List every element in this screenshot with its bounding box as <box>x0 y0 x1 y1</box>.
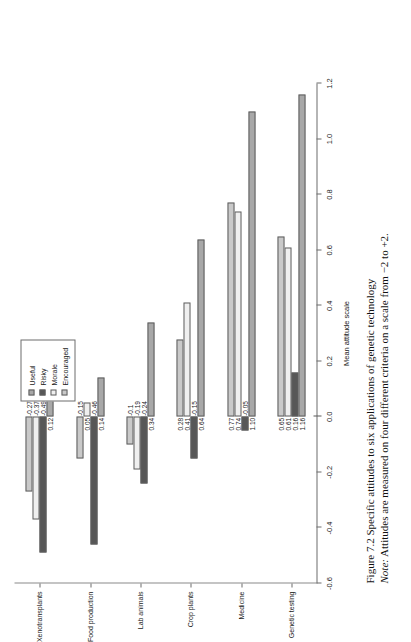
bar-useful <box>97 377 104 416</box>
bar-value-label: 0.65 <box>277 417 284 430</box>
legend-label: Useful <box>28 365 35 385</box>
bar-useful <box>197 239 204 417</box>
bar-value-label: 0.28 <box>176 417 183 430</box>
legend-label: Morale <box>50 364 57 385</box>
bar-value-label: 1.16 <box>298 417 305 430</box>
value-axis-tick-label: 0.6 <box>324 244 333 254</box>
bar-value-label: 1.10 <box>248 417 255 430</box>
legend-label: Risky <box>39 368 46 385</box>
caption-note-lead: Note: <box>377 559 389 583</box>
bar-value-label: 0.05 <box>83 417 90 430</box>
caption-note-text: Attitudes are measured on four different… <box>377 233 389 559</box>
bar-morale <box>133 416 140 469</box>
value-axis-line <box>316 83 317 583</box>
bar-value-label: 0.12 <box>46 417 53 430</box>
caption-note: Note: Attitudes are measured on four dif… <box>376 23 390 583</box>
value-axis-tick <box>316 471 321 472</box>
value-axis-tick-label: -0.6 <box>324 577 333 590</box>
bar-risky <box>291 372 298 416</box>
value-axis-tick <box>316 526 321 527</box>
bar-morale <box>234 211 241 417</box>
bar-value-label: -0.05 <box>241 401 248 416</box>
legend-item: Morale <box>48 347 58 395</box>
bar-morale <box>183 302 190 416</box>
bar-useful <box>298 94 305 416</box>
legend-item: Useful <box>26 347 36 395</box>
bar-value-label: 0.64 <box>197 417 204 430</box>
bar-risky <box>39 416 46 552</box>
value-axis-tick <box>316 138 321 139</box>
caption-title: Figure 7.2 Specific attitudes to six app… <box>362 23 376 583</box>
bar-risky <box>140 416 147 483</box>
bar-encouraged <box>25 416 32 491</box>
value-axis-tick-label: -0.2 <box>324 465 333 478</box>
bar-value-label: -0.19 <box>133 401 140 416</box>
bar-value-label: -0.27 <box>25 401 32 416</box>
legend-swatch-morale <box>50 389 56 395</box>
value-axis-tick-label: 0.2 <box>324 356 333 366</box>
bar-risky <box>190 416 197 458</box>
bar-value-label: 0.14 <box>97 417 104 430</box>
value-axis-tick-label: 1.0 <box>324 133 333 143</box>
value-axis-tick <box>316 582 321 583</box>
bar-value-label: 0.41 <box>183 417 190 430</box>
bar-value-label: -0.24 <box>140 401 147 416</box>
category-label: Food production <box>86 585 93 642</box>
bar-value-label: -0.1 <box>126 404 133 415</box>
bar-value-label: 0.34 <box>147 417 154 430</box>
value-axis-tick-label: 0.4 <box>324 300 333 310</box>
value-axis-tick <box>316 82 321 83</box>
legend-swatch-encouraged <box>61 389 67 395</box>
bar-value-label: 0.16 <box>291 417 298 430</box>
bar-value-label: 0.77 <box>227 417 234 430</box>
figure-caption: Figure 7.2 Specific attitudes to six app… <box>362 23 390 583</box>
value-axis-tick-label: 0.0 <box>324 411 333 421</box>
value-axis-tick <box>316 360 321 361</box>
category-label: Genetic testing <box>287 585 294 638</box>
category-label: Lab animals <box>136 585 143 629</box>
value-axis-tick <box>313 415 321 416</box>
value-axis-tick <box>316 249 321 250</box>
bar-value-label: -0.15 <box>190 401 197 416</box>
value-axis-tick-label: 1.2 <box>324 78 333 88</box>
bar-value-label: -0.37 <box>32 401 39 416</box>
bar-encouraged <box>176 339 183 417</box>
value-axis-tick-label: 0.8 <box>324 189 333 199</box>
bar-encouraged <box>126 416 133 444</box>
value-axis-tick <box>316 193 321 194</box>
bar-value-label: -0.49 <box>39 401 46 416</box>
bar-encouraged <box>227 202 234 416</box>
bar-risky <box>90 416 97 544</box>
legend: UsefulRiskyMoraleEncouraged <box>20 339 75 401</box>
bar-morale <box>83 402 90 416</box>
bar-value-label: -0.46 <box>90 401 97 416</box>
legend-label: Encouraged <box>61 347 68 385</box>
bar-value-label: 0.74 <box>234 417 241 430</box>
bar-encouraged <box>277 236 284 417</box>
bar-value-label: 0.61 <box>284 417 291 430</box>
bar-useful <box>248 111 255 417</box>
legend-swatch-useful <box>28 389 34 395</box>
category-axis-line <box>14 582 316 583</box>
plot-area: -0.27-0.37-0.490.12-0.150.05-0.460.14-0.… <box>14 83 316 583</box>
category-label: Crop plants <box>187 585 194 627</box>
legend-item: Encouraged <box>59 347 69 395</box>
legend-item: Risky <box>37 347 47 395</box>
category-label: Medicine <box>237 585 244 619</box>
legend-swatch-risky <box>39 389 45 395</box>
bar-risky <box>241 416 248 430</box>
bar-encouraged <box>76 416 83 458</box>
bar-morale <box>284 247 291 416</box>
bar-value-label: -0.15 <box>76 401 83 416</box>
category-label: Xenotransplants <box>36 585 43 642</box>
value-axis-tick <box>316 304 321 305</box>
bar-morale <box>32 416 39 519</box>
bar-useful <box>147 322 154 416</box>
value-axis-title: Mean attitude scale <box>341 83 350 583</box>
value-axis-tick-label: -0.4 <box>324 521 333 534</box>
